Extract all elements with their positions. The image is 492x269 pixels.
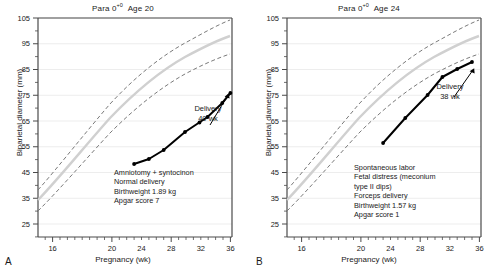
note-line: Birthweight 1.57 kg [354, 201, 478, 210]
panel-a-y-tick-labels: 105 95 85 75 65 55 45 35 25 [17, 14, 30, 229]
y-tick-35: 35 [22, 194, 30, 203]
y-tick-45: 45 [271, 168, 279, 177]
y-tick-65: 65 [271, 117, 279, 126]
panel-a-clinical-notes: Amniotomy + syntocinon Normal delivery B… [114, 168, 194, 206]
x-tick-24: 24 [386, 244, 394, 253]
panel-b-y-tick-labels: 105 95 85 75 65 55 45 35 25 [266, 14, 279, 229]
x-tick-20: 20 [108, 244, 116, 253]
y-tick-85: 85 [271, 65, 279, 74]
note-line: Birthweight 1.89 kg [114, 187, 194, 196]
y-tick-85: 85 [22, 65, 30, 74]
y-tick-35: 35 [271, 194, 279, 203]
y-tick-25: 25 [271, 220, 279, 229]
panel-b-y-ticks [282, 18, 287, 237]
x-tick-16: 16 [48, 244, 56, 253]
note-line: Fetal distress (meconium [354, 172, 478, 181]
panel-b-patient-series [381, 60, 474, 145]
panel-a-x-ticks [45, 237, 230, 242]
panel-a-patient-series [132, 91, 232, 166]
y-tick-95: 95 [271, 39, 279, 48]
panel-a-y-ticks [33, 18, 38, 237]
note-line: Forceps delivery [354, 191, 478, 200]
panel-b-x-ticks [294, 237, 479, 242]
y-tick-55: 55 [22, 142, 30, 151]
x-tick-36: 36 [226, 244, 234, 253]
y-tick-55: 55 [271, 142, 279, 151]
y-tick-105: 105 [266, 14, 279, 23]
panel-b-clinical-notes: Spontaneous labor Fetal distress (meconi… [354, 163, 478, 219]
x-tick-16: 16 [297, 244, 305, 253]
panel-b-delivery-annotation: Delivery 38 wk [424, 82, 476, 101]
note-line: type II dips) [354, 182, 478, 191]
panel-a-plot-area: 105 95 85 75 65 55 45 35 25 [0, 0, 246, 269]
panel-b-plot-area: 105 95 85 75 65 55 45 35 25 [246, 0, 492, 269]
note-line: Apgar score 1 [354, 210, 478, 219]
panel-b-x-tick-labels: 16 20 24 28 32 36 [297, 244, 483, 253]
y-tick-105: 105 [17, 14, 30, 23]
panel-b-delivery-line1: Delivery [424, 82, 476, 92]
panel-b-delivery-line2: 38 wk [424, 92, 476, 102]
chart-panel-b: Para 0+0 Age 24 Biparietal diameter (mm)… [246, 0, 492, 269]
note-line: Normal delivery [114, 177, 194, 186]
fetal-growth-chart-figure: Para 0+0 Age 20 Biparietal diameter (mm)… [0, 0, 492, 269]
panel-a-delivery-line1: Delivery [182, 104, 234, 114]
note-line: Amniotomy + syntocinon [114, 168, 194, 177]
x-tick-20: 20 [357, 244, 365, 253]
panel-b-patient-markers [381, 60, 474, 145]
x-tick-32: 32 [446, 244, 454, 253]
chart-panel-a: Para 0+0 Age 20 Biparietal diameter (mm)… [0, 0, 246, 269]
note-line: Spontaneous labor [354, 163, 478, 172]
panel-b-patient-line [383, 62, 472, 143]
panel-a-x-tick-labels: 16 20 24 28 32 36 [48, 244, 234, 253]
panel-a-patient-markers [132, 91, 232, 166]
panel-a-delivery-annotation: Delivery 40 wk [182, 104, 234, 123]
y-tick-65: 65 [22, 117, 30, 126]
note-line: Apgar score 7 [114, 196, 194, 205]
x-tick-36: 36 [475, 244, 483, 253]
y-tick-75: 75 [271, 91, 279, 100]
y-tick-25: 25 [22, 220, 30, 229]
y-tick-75: 75 [22, 91, 30, 100]
x-tick-28: 28 [167, 244, 175, 253]
y-tick-95: 95 [22, 39, 30, 48]
x-tick-24: 24 [137, 244, 145, 253]
panel-b-letter: B [256, 256, 263, 267]
panel-a-letter: A [5, 256, 12, 267]
y-tick-45: 45 [22, 168, 30, 177]
x-tick-32: 32 [197, 244, 205, 253]
panel-a-delivery-line2: 40 wk [182, 114, 234, 124]
x-tick-28: 28 [416, 244, 424, 253]
